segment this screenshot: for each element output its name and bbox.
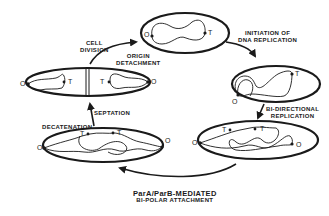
label-decatenation: DECATENATION — [42, 124, 92, 131]
label-origin-detachment: ORIGIN DETACHMENT — [116, 53, 161, 67]
label-septation: SEPTATION — [94, 110, 130, 117]
marker-origin-decatenation-right: O — [165, 137, 170, 144]
label-para-parb: ParA/ParB-MEDIATED BI-POLAR ATTACHMENT — [133, 190, 217, 204]
marker-terminus-decatenation-2: T — [117, 129, 121, 136]
label-para-parb-line1: ParA/ParB-MEDIATED — [133, 190, 217, 197]
label-para-parb-line2: BI-POLAR ATTACHMENT — [133, 197, 217, 204]
marker-origin-septated-right: O — [151, 78, 156, 85]
marker-terminus-septated-left: T — [68, 78, 72, 85]
label-bidirectional-line2: REPLICATION — [266, 113, 319, 120]
marker-terminus-replicating-2: T — [260, 125, 264, 132]
arrow-bipolar-attachment — [120, 164, 236, 177]
marker-terminus-initiated: T — [295, 70, 299, 77]
marker-terminus-decatenation-1: T — [80, 130, 84, 137]
label-cell-division-line2: DIVISION — [80, 47, 109, 54]
bidirectional-replication-cell — [198, 121, 318, 159]
cell-cycle-diagram: CELL DIVISION ORIGIN DETACHMENT INITIATI… — [0, 0, 329, 216]
label-bidirectional: BI-DIRECTIONAL REPLICATION — [266, 106, 319, 120]
decatenation-cell — [42, 128, 163, 162]
marker-origin-replicating-left: O — [192, 139, 197, 146]
replication-initiated-cell — [232, 66, 320, 102]
arrow-bidirectional — [258, 104, 264, 118]
marker-terminus-newborn: T — [208, 29, 212, 36]
marker-origin-initiated: O — [232, 98, 237, 105]
marker-origin-decatenation-left: O — [37, 144, 42, 151]
marker-terminus-replicating-1: T — [222, 126, 226, 133]
label-origin-detachment-line1: ORIGIN — [116, 53, 161, 60]
marker-terminus-septated-right: T — [100, 78, 104, 85]
septated-cell — [26, 68, 150, 96]
label-initiation-line2: DNA REPLICATION — [238, 37, 297, 44]
label-cell-division: CELL DIVISION — [80, 40, 109, 54]
newborn-cell — [141, 13, 229, 53]
label-bidirectional-line1: BI-DIRECTIONAL — [266, 106, 319, 113]
label-initiation: INITIATION OF DNA REPLICATION — [238, 30, 297, 44]
label-origin-detachment-line2: DETACHMENT — [116, 60, 161, 67]
marker-origin-septated-left: O — [20, 80, 25, 87]
label-cell-division-line1: CELL — [80, 40, 109, 47]
label-initiation-line1: INITIATION OF — [238, 30, 297, 37]
marker-origin-replicating-right: O — [296, 141, 301, 148]
marker-origin-newborn: O — [144, 31, 149, 38]
arrow-initiation — [226, 42, 255, 56]
